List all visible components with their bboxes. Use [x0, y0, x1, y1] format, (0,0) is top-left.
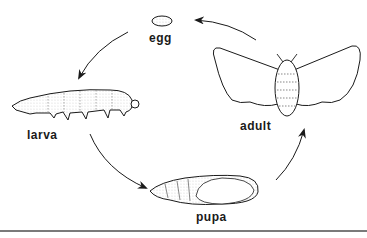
- adult-label: adult: [240, 119, 271, 133]
- pupa-label: pupa: [196, 210, 227, 224]
- arrow-egg-to-larva: [79, 32, 128, 78]
- larva-illustration: [12, 90, 139, 120]
- egg-label: egg: [149, 31, 172, 45]
- adult-moth-illustration: [213, 46, 360, 116]
- arrow-larva-to-pupa: [90, 134, 146, 188]
- arrow-pupa-to-adult: [276, 130, 304, 180]
- life-cycle-diagram: [0, 0, 367, 238]
- bottom-rule: [0, 230, 367, 232]
- larva-label: larva: [27, 128, 58, 142]
- pupa-illustration: [150, 175, 258, 204]
- arrow-adult-to-egg: [196, 20, 256, 40]
- egg-illustration: [152, 16, 172, 26]
